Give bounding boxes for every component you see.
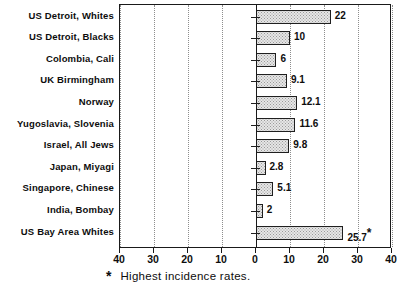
bar-axis-tick	[251, 60, 260, 61]
x-axis-tick-label: 10	[283, 253, 295, 265]
y-axis-label: Israel, All Jews	[2, 139, 114, 150]
bar-axis-tick	[251, 17, 260, 18]
y-axis-label: India, Bombay	[2, 204, 114, 215]
bar-axis-tick	[251, 125, 260, 126]
bar-axis-tick	[251, 81, 260, 82]
y-axis-label: Norway	[2, 96, 114, 107]
incidence-rate-bar-chart: US Detroit, WhitesUS Detroit, BlacksColo…	[0, 0, 407, 290]
x-axis-tick-label: 30	[351, 253, 363, 265]
bar	[256, 226, 343, 240]
x-axis-tick-label: 40	[113, 253, 125, 265]
bar-rows	[120, 5, 390, 247]
gridline-pos40	[392, 5, 393, 247]
bar-value-label: 11.6	[299, 118, 318, 129]
y-axis-label: Yugoslavia, Slovenia	[2, 118, 114, 129]
bar-value-label: 9.1	[291, 74, 305, 85]
bar	[256, 31, 290, 45]
x-axis-tick-label: 10	[215, 253, 227, 265]
x-axis-tick-label: 20	[181, 253, 193, 265]
bar-value-label: 22	[335, 10, 346, 21]
bar-value-label: 2	[267, 204, 273, 215]
bar-axis-tick	[251, 233, 260, 234]
bar	[256, 10, 331, 24]
footnote: *Highest incidence rates.	[106, 267, 250, 283]
bar-axis-tick	[251, 211, 260, 212]
y-axis-label: US Bay Area Whites	[2, 226, 114, 237]
bar-value-label: 6	[280, 53, 286, 64]
y-axis-label: Japan, Miyagi	[2, 161, 114, 172]
x-axis-tick-labels: 40302010010203040	[0, 253, 407, 267]
bar	[256, 118, 295, 132]
bar-value-label: 12.1	[301, 96, 320, 107]
y-axis-label: Colombia, Cali	[2, 53, 114, 64]
bar	[256, 96, 297, 110]
x-axis-tick-label: 20	[317, 253, 329, 265]
bar	[256, 74, 287, 88]
bar-axis-tick	[251, 168, 260, 169]
footnote-star-icon: *	[106, 268, 111, 284]
bar	[256, 139, 289, 153]
x-axis-tick-label: 0	[252, 253, 258, 265]
bar-value-label: 25.7*	[347, 226, 371, 243]
bar-value-label: 5.1	[277, 182, 291, 193]
bar-value-label: 2.8	[270, 161, 284, 172]
footnote-text: Highest incidence rates.	[120, 270, 250, 282]
bar-value-label: 9.8	[293, 139, 307, 150]
y-axis-label: US Detroit, Whites	[2, 10, 114, 21]
bar-axis-tick	[251, 189, 260, 190]
plot-area	[119, 4, 391, 248]
y-axis-label: US Detroit, Blacks	[2, 31, 114, 42]
bar-axis-tick	[251, 146, 260, 147]
y-axis-label: Singapore, Chinese	[2, 182, 114, 193]
x-axis-tick-label: 30	[147, 253, 159, 265]
bar-axis-tick	[251, 103, 260, 104]
highest-rate-star-icon: *	[367, 226, 372, 240]
y-axis-label: UK Birmingham	[2, 74, 114, 85]
bar-axis-tick	[251, 38, 260, 39]
bar-value-label: 10	[294, 31, 305, 42]
x-axis-tick-label: 40	[385, 253, 397, 265]
